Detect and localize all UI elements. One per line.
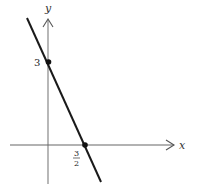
x-intercept-numerator: 3: [74, 149, 79, 158]
graph-line: [27, 18, 101, 182]
y-axis-label: y: [44, 2, 52, 15]
x-intercept-point: 3 2: [73, 142, 88, 168]
graph-canvas: y x 3 3 2: [0, 0, 197, 194]
x-axis: x: [10, 139, 186, 152]
y-axis: y: [43, 2, 53, 184]
x-intercept-denominator: 2: [74, 159, 79, 168]
y-intercept-label: 3: [34, 57, 40, 68]
x-axis-label: x: [179, 139, 186, 152]
